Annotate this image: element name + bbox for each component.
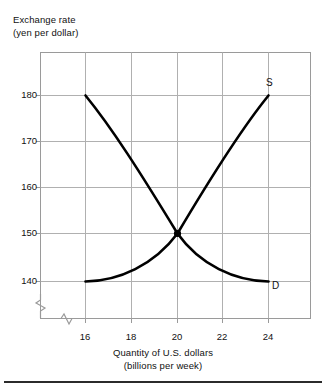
- bottom-divider-rule: [4, 381, 322, 383]
- x-tick-label-24: 24: [253, 332, 283, 342]
- exchange-rate-chart: Exchange rate (yen per dollar): [0, 0, 326, 392]
- y-tick-label-150: 150: [7, 228, 37, 238]
- plot-frame: [41, 53, 311, 319]
- x-tick-label-22: 22: [207, 332, 237, 342]
- supply-curve-label: S: [266, 78, 273, 88]
- y-axis-break-zigzag: [36, 294, 45, 318]
- x-tick-label-16: 16: [70, 332, 100, 342]
- equilibrium-point-marker: [174, 230, 181, 237]
- x-tick-label-18: 18: [116, 332, 146, 342]
- demand-curve-label: D: [272, 281, 279, 291]
- y-tick-label-140: 140: [7, 276, 37, 286]
- x-tick-label-20: 20: [162, 332, 192, 342]
- horizontal-gridlines: [41, 96, 311, 282]
- y-tick-label-160: 160: [7, 182, 37, 192]
- y-tick-label-180: 180: [7, 90, 37, 100]
- x-axis-title-line2: (billions per week): [0, 360, 326, 373]
- x-axis-break-zigzag: [55, 314, 78, 324]
- x-axis-tick-marks: [86, 319, 269, 324]
- x-axis-title-line1: Quantity of U.S. dollars: [113, 347, 213, 358]
- x-axis-title: Quantity of U.S. dollars (billions per w…: [0, 347, 326, 372]
- y-tick-label-170: 170: [7, 136, 37, 146]
